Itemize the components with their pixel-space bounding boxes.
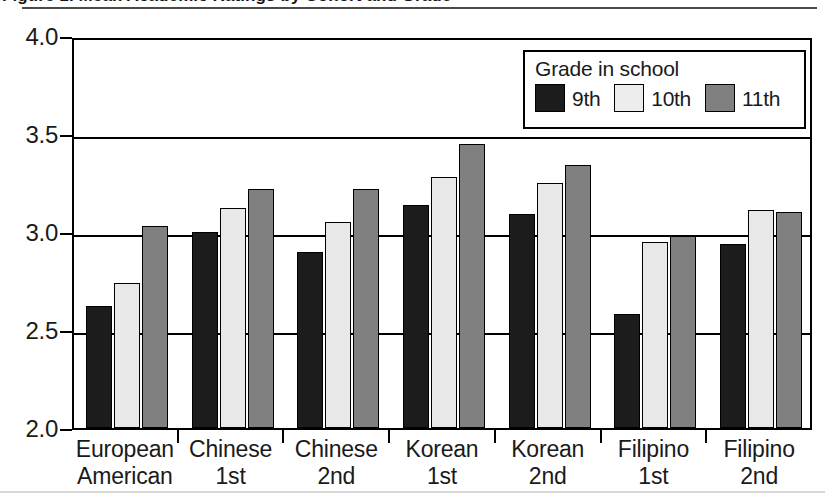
category-line-1: Filipino xyxy=(601,436,707,463)
category-line-1: Korean xyxy=(495,436,601,463)
y-axis-tick-label: 2.5 xyxy=(6,319,58,343)
bar-9th-chinese-1st[interactable] xyxy=(192,232,218,428)
bar-11th-european-american[interactable] xyxy=(142,226,168,428)
y-axis-tick-label: 4.0 xyxy=(6,25,58,49)
bar-9th-chinese-2nd[interactable] xyxy=(297,252,323,428)
legend-swatch-11th xyxy=(705,84,735,112)
bar-9th-korean-2nd[interactable] xyxy=(509,214,535,428)
category-line-1: Korean xyxy=(389,436,495,463)
legend-swatch-10th xyxy=(614,84,644,112)
x-axis-category-label: EuropeanAmerican xyxy=(72,436,178,490)
category-line-2: 2nd xyxy=(495,463,601,490)
category-line-2: 2nd xyxy=(706,463,812,490)
legend-items: 9th10th11th xyxy=(535,84,794,112)
bar-chart: 4.03.53.02.52.0 EuropeanAmericanChinese1… xyxy=(0,0,825,493)
x-axis-category-label: Filipino1st xyxy=(601,436,707,490)
bar-10th-filipino-1st[interactable] xyxy=(642,242,668,428)
category-line-2: 1st xyxy=(389,463,495,490)
x-axis-category-label: Chinese2nd xyxy=(283,436,389,490)
y-axis-tick xyxy=(60,233,72,235)
bar-10th-korean-1st[interactable] xyxy=(431,177,457,428)
bar-9th-filipino-2nd[interactable] xyxy=(720,244,746,428)
category-line-2: 1st xyxy=(601,463,707,490)
y-axis-tick-label: 3.0 xyxy=(6,221,58,245)
category-line-2: 2nd xyxy=(283,463,389,490)
x-axis-category-label: Filipino2nd xyxy=(706,436,812,490)
bar-11th-filipino-1st[interactable] xyxy=(670,236,696,428)
y-axis-tick xyxy=(60,135,72,137)
bar-11th-korean-2nd[interactable] xyxy=(565,165,591,428)
category-line-2: 1st xyxy=(178,463,284,490)
bar-11th-chinese-1st[interactable] xyxy=(248,189,274,428)
x-axis-category-label: Korean2nd xyxy=(495,436,601,490)
category-line-1: European xyxy=(72,436,178,463)
legend-label-10th: 10th xyxy=(651,88,691,109)
bar-9th-filipino-1st[interactable] xyxy=(614,314,640,428)
category-line-1: Filipino xyxy=(706,436,812,463)
bar-11th-chinese-2nd[interactable] xyxy=(353,189,379,428)
y-axis-tick xyxy=(60,37,72,39)
x-axis-labels: EuropeanAmericanChinese1stChinese2ndKore… xyxy=(72,436,812,493)
bar-11th-filipino-2nd[interactable] xyxy=(776,212,802,428)
y-axis-tick-label: 2.0 xyxy=(6,417,58,441)
legend-label-9th: 9th xyxy=(572,88,600,109)
bar-9th-european-american[interactable] xyxy=(86,306,112,428)
chart-legend: Grade in school 9th10th11th xyxy=(523,50,806,129)
bar-group xyxy=(180,40,286,428)
category-line-1: Chinese xyxy=(178,436,284,463)
x-axis-category-label: Korean1st xyxy=(389,436,495,490)
bar-group xyxy=(391,40,497,428)
x-axis-category-label: Chinese1st xyxy=(178,436,284,490)
bar-group xyxy=(285,40,391,428)
y-axis-tick-label: 3.5 xyxy=(6,123,58,147)
bar-10th-filipino-2nd[interactable] xyxy=(748,210,774,428)
bar-10th-european-american[interactable] xyxy=(114,283,140,428)
y-axis-labels: 4.03.53.02.52.0 xyxy=(0,0,58,493)
legend-label-11th: 11th xyxy=(742,88,780,109)
bar-9th-korean-1st[interactable] xyxy=(403,205,429,428)
legend-item-11th[interactable]: 11th xyxy=(705,84,780,112)
bar-10th-chinese-2nd[interactable] xyxy=(325,222,351,428)
y-axis-tick xyxy=(60,429,72,431)
legend-item-10th[interactable]: 10th xyxy=(614,84,691,112)
category-line-1: Chinese xyxy=(283,436,389,463)
legend-item-9th[interactable]: 9th xyxy=(535,84,600,112)
category-line-2: American xyxy=(72,463,178,490)
legend-title: Grade in school xyxy=(535,56,794,81)
bar-10th-korean-2nd[interactable] xyxy=(537,183,563,428)
bar-11th-korean-1st[interactable] xyxy=(459,144,485,428)
y-axis-tick xyxy=(60,331,72,333)
legend-swatch-9th xyxy=(535,84,565,112)
bar-10th-chinese-1st[interactable] xyxy=(220,208,246,428)
bar-group xyxy=(74,40,180,428)
